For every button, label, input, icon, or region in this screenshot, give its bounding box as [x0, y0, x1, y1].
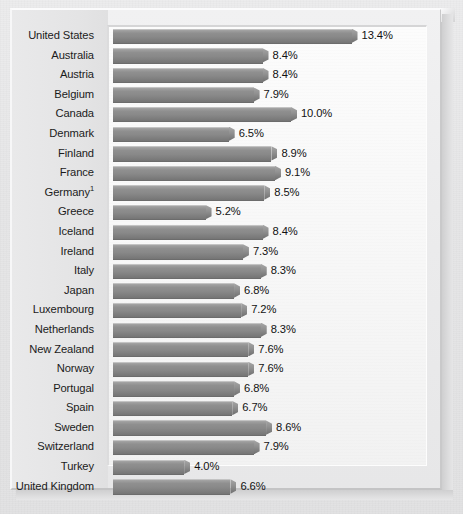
bar-end-bevel	[266, 420, 272, 434]
bar-track	[113, 440, 254, 454]
category-label: United Kingdom	[0, 477, 100, 497]
category-label: Canada	[0, 104, 100, 124]
bar-value-label: 7.6%	[258, 340, 283, 360]
bar-track	[113, 244, 243, 258]
category-label: Norway	[0, 359, 100, 379]
bar[interactable]	[113, 29, 352, 43]
bar-shadow-line	[113, 43, 352, 44]
bar-value-label: 8.3%	[271, 320, 296, 340]
bar-track	[113, 420, 266, 434]
bar-end-bevel	[254, 87, 260, 101]
bar[interactable]	[113, 440, 254, 454]
bar-shadow-line	[113, 180, 275, 181]
chart-row: Switzerland7.9%	[0, 437, 463, 457]
bar-value-label: 8.4%	[273, 65, 298, 85]
category-label: Australia	[0, 46, 100, 66]
bar[interactable]	[113, 244, 243, 258]
bar-value-label: 13.4%	[362, 26, 393, 46]
bar-end-bevel	[352, 29, 358, 43]
bar-value-label: 5.2%	[216, 202, 241, 222]
footnote-marker: 1	[90, 184, 94, 193]
bar[interactable]	[113, 185, 264, 199]
bar-end-bevel	[234, 381, 240, 395]
category-label: Spain	[0, 398, 100, 418]
bar-track	[113, 362, 248, 376]
bar[interactable]	[113, 146, 271, 160]
bar-end-bevel	[234, 283, 240, 297]
bar[interactable]	[113, 420, 266, 434]
chart-row: Belgium7.9%	[0, 85, 463, 105]
bar-shadow-line	[113, 494, 230, 495]
bar[interactable]	[113, 68, 263, 82]
bar-end-bevel	[254, 440, 260, 454]
bar[interactable]	[113, 225, 263, 239]
chart-row: Iceland8.4%	[0, 222, 463, 242]
bar-shadow-line	[113, 259, 243, 260]
category-label: Greece	[0, 202, 100, 222]
bar-end-bevel	[243, 244, 249, 258]
bar-end-bevel	[263, 225, 269, 239]
category-label: France	[0, 163, 100, 183]
bar-shadow-line	[113, 121, 291, 122]
category-label: Belgium	[0, 85, 100, 105]
chart-row: Ireland7.3%	[0, 242, 463, 262]
bar-shadow-line	[113, 219, 206, 220]
bar-value-label: 4.0%	[194, 457, 219, 477]
chart-row: Sweden8.6%	[0, 418, 463, 438]
bar[interactable]	[113, 283, 234, 297]
bar-shadow-line	[113, 161, 271, 162]
bar-rows: United States13.4%Australia8.4%Austria8.…	[0, 26, 463, 466]
bar-end-bevel	[184, 460, 190, 474]
category-label: Switzerland	[0, 437, 100, 457]
bar-end-bevel	[263, 68, 269, 82]
category-label: New Zealand	[0, 340, 100, 360]
bar[interactable]	[113, 87, 254, 101]
bar[interactable]	[113, 401, 232, 415]
chart-row: France9.1%	[0, 163, 463, 183]
bar-track	[113, 68, 263, 82]
bar-end-bevel	[232, 401, 238, 415]
bar[interactable]	[113, 460, 184, 474]
bar-track	[113, 107, 291, 121]
bar-value-label: 9.1%	[285, 163, 310, 183]
chart-row: United States13.4%	[0, 26, 463, 46]
bar-value-label: 8.4%	[273, 46, 298, 66]
bar-track	[113, 303, 241, 317]
chart-row: United Kingdom6.6%	[0, 477, 463, 497]
bar-end-bevel	[248, 342, 254, 356]
category-label: Austria	[0, 65, 100, 85]
bar[interactable]	[113, 342, 248, 356]
category-label: Turkey	[0, 457, 100, 477]
bar-value-label: 8.4%	[273, 222, 298, 242]
bar[interactable]	[113, 48, 263, 62]
bar-track	[113, 381, 234, 395]
chart-row: Denmark6.5%	[0, 124, 463, 144]
bar-track	[113, 29, 352, 43]
bar[interactable]	[113, 127, 229, 141]
bar[interactable]	[113, 107, 291, 121]
bar[interactable]	[113, 381, 234, 395]
bar-end-bevel	[261, 323, 267, 337]
bar[interactable]	[113, 362, 248, 376]
bar[interactable]	[113, 264, 261, 278]
bar[interactable]	[113, 205, 206, 219]
bar-end-bevel	[229, 127, 235, 141]
bar-track	[113, 127, 229, 141]
bar[interactable]	[113, 166, 275, 180]
bar-shadow-line	[113, 200, 264, 201]
bar-value-label: 7.6%	[258, 359, 283, 379]
bar-value-label: 6.5%	[239, 124, 264, 144]
bar-shadow-line	[113, 435, 266, 436]
bar-shadow-line	[113, 278, 261, 279]
bar-value-label: 6.7%	[242, 398, 267, 418]
chart-row: Netherlands8.3%	[0, 320, 463, 340]
bar-value-label: 6.6%	[240, 477, 265, 497]
chart-row: Japan6.8%	[0, 281, 463, 301]
chart-row: Italy8.3%	[0, 261, 463, 281]
chart-row: Canada10.0%	[0, 104, 463, 124]
bar[interactable]	[113, 303, 241, 317]
bar[interactable]	[113, 323, 261, 337]
bar[interactable]	[113, 479, 230, 493]
chart-row: Germany18.5%	[0, 183, 463, 203]
bar-value-label: 8.5%	[274, 183, 299, 203]
